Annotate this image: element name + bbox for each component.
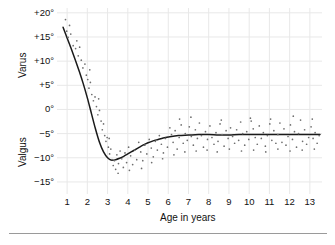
- scatter-point: [277, 148, 279, 150]
- scatter-point: [232, 136, 234, 138]
- scatter-point: [129, 169, 131, 171]
- x-tick-label: 13: [302, 196, 318, 208]
- scatter-point: [308, 137, 310, 139]
- scatter-point: [85, 74, 87, 76]
- scatter-point: [301, 149, 303, 151]
- scatter-point: [253, 149, 255, 151]
- scatter-point: [267, 135, 269, 137]
- scatter-point: [225, 130, 227, 132]
- scatter-point: [182, 142, 184, 144]
- scatter-point: [111, 159, 113, 161]
- scatter-point: [242, 133, 244, 135]
- scatter-point: [314, 132, 316, 134]
- scatter-point: [172, 141, 174, 143]
- scatter-point: [109, 153, 111, 155]
- scatter-point: [80, 59, 82, 61]
- scatter-point: [91, 94, 93, 96]
- trend-line: [63, 27, 320, 160]
- scatter-point: [206, 149, 208, 151]
- scatter-point: [271, 140, 273, 142]
- scatter-point: [77, 55, 79, 57]
- scatter-point: [186, 140, 188, 142]
- scatter-point: [195, 150, 197, 152]
- chart-figure: Varus Valgus +20°+15°+10°+5°0°−5°−10°−15…: [0, 0, 335, 245]
- scatter-point: [130, 155, 132, 157]
- scatter-point: [283, 128, 285, 130]
- scatter-point: [114, 160, 116, 162]
- scatter-point: [265, 145, 267, 147]
- scatter-point: [169, 127, 171, 129]
- scatter-point: [289, 150, 291, 152]
- scatter-point: [82, 67, 84, 69]
- scatter-point: [219, 123, 221, 125]
- scatter-point: [262, 132, 264, 134]
- scatter-point: [241, 150, 243, 152]
- scatter-point: [180, 124, 182, 126]
- scatter-point: [115, 169, 117, 171]
- scatter-point: [89, 69, 91, 71]
- scatter-point: [163, 152, 165, 154]
- scatter-point: [75, 48, 77, 50]
- scatter-point: [215, 132, 217, 134]
- scatter-point: [142, 160, 144, 162]
- scatter-point: [269, 123, 271, 125]
- y-tick-label: −15°: [8, 177, 54, 187]
- scatter-point: [238, 140, 240, 142]
- scatter-point: [190, 116, 192, 118]
- footer-rule: [9, 233, 327, 234]
- scatter-point: [171, 134, 173, 136]
- scatter-point: [236, 129, 238, 131]
- scatter-point: [205, 131, 207, 133]
- x-tick-label: 4: [120, 196, 136, 208]
- scatter-point: [197, 138, 199, 140]
- scatter-point: [279, 122, 281, 124]
- scatter-point: [106, 137, 108, 139]
- scatter-point: [176, 148, 178, 150]
- y-tick-label: 0°: [8, 104, 54, 114]
- scatter-point: [104, 135, 106, 137]
- scatter-point: [230, 127, 232, 129]
- scatter-point: [318, 135, 320, 137]
- x-tick-label: 10: [241, 196, 257, 208]
- scatter-point: [211, 137, 213, 139]
- scatter-point: [246, 131, 248, 133]
- scatter-point: [258, 125, 260, 127]
- scatter-point: [223, 145, 225, 147]
- scatter-point: [173, 154, 175, 156]
- scatter-point: [148, 139, 150, 141]
- scatter-point: [216, 151, 218, 153]
- scatter-point: [250, 117, 252, 119]
- x-tick-label: 2: [79, 196, 95, 208]
- scatter-point: [287, 136, 289, 138]
- scatter-point: [134, 149, 136, 151]
- scatter-point: [213, 143, 215, 145]
- scatter-point: [252, 128, 254, 130]
- scatter-point: [123, 167, 125, 169]
- scatter-point: [67, 37, 69, 39]
- scatter-point: [240, 121, 242, 123]
- scatter-point: [117, 172, 119, 174]
- scatter-point: [65, 19, 67, 21]
- scatter-point: [140, 151, 142, 153]
- x-tick-label: 1: [59, 196, 75, 208]
- scatter-point: [138, 141, 140, 143]
- scatter-point: [93, 100, 95, 102]
- scatter-point: [201, 135, 203, 137]
- x-tick-label: 3: [100, 196, 116, 208]
- x-axis-label: Age in years: [160, 212, 216, 223]
- scatter-point: [248, 139, 250, 141]
- scatter-point: [118, 163, 120, 165]
- scatter-point: [121, 158, 123, 160]
- y-tick-label: +15°: [8, 32, 54, 42]
- scatter-point: [156, 149, 158, 151]
- scatter-point: [94, 96, 96, 98]
- scatter-point: [285, 144, 287, 146]
- scatter-point: [162, 158, 164, 160]
- scatter-point: [128, 146, 130, 148]
- scatter-point: [69, 25, 71, 27]
- scatter-point: [100, 120, 102, 122]
- scatter-point: [306, 143, 308, 145]
- scatter-point: [292, 139, 294, 141]
- scatter-point: [150, 147, 152, 149]
- scatter-point: [209, 125, 211, 127]
